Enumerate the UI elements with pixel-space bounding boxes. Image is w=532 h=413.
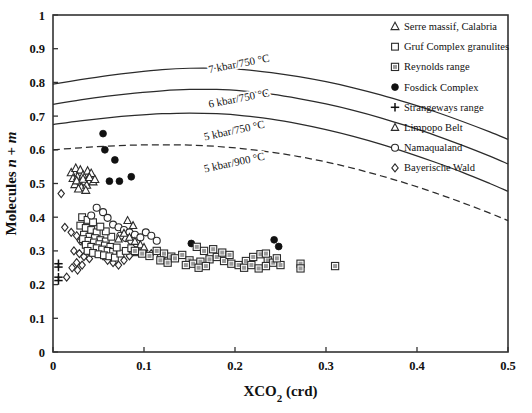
marker-square-gray (277, 261, 284, 268)
marker-square-gray (297, 265, 304, 272)
legend-label: Serre massif, Calabria (404, 21, 497, 32)
marker-circle-open (104, 214, 111, 221)
marker-circle-filled (101, 146, 108, 153)
svg-text:5 kbar/750 °C: 5 kbar/750 °C (203, 118, 266, 143)
marker-square-gray (262, 250, 269, 257)
marker-square-gray (262, 262, 269, 269)
marker-square-gray (182, 261, 189, 268)
marker-square-gray (164, 259, 171, 266)
marker-square-gray (131, 247, 138, 254)
marker-square-gray (248, 261, 255, 268)
marker-square-open (113, 244, 120, 251)
marker-circle-filled (116, 178, 123, 185)
legend-item-bayerische[interactable]: Bayerische Wald (392, 162, 476, 173)
marker-square-gray (228, 260, 235, 267)
marker-circle-filled (392, 84, 399, 91)
marker-square-open (392, 43, 399, 50)
marker-triangle-limpopo (124, 217, 131, 224)
marker-square-gray (219, 249, 226, 256)
y-tick-label: 0.5 (29, 177, 45, 191)
marker-plus (391, 103, 399, 111)
marker-square-gray (195, 264, 202, 271)
marker-circle-filled (106, 178, 113, 185)
series-strangeways-range (54, 260, 62, 285)
marker-triangle-limpopo (391, 124, 398, 131)
legend-item-gruf[interactable]: Gruf Complex granulites (392, 41, 509, 52)
marker-diamond-open (62, 223, 68, 231)
y-tick-label: 0.2 (29, 278, 45, 292)
scatter-plot: 00.10.20.30.40.500.10.20.30.40.50.60.70.… (0, 0, 532, 413)
marker-square-gray (160, 250, 167, 257)
marker-square-gray (273, 255, 280, 262)
marker-square-gray (146, 252, 153, 259)
marker-square-gray (139, 250, 146, 257)
legend-item-reynolds[interactable]: Reynolds range (391, 61, 470, 72)
marker-square-open (90, 219, 97, 226)
marker-square-gray (179, 251, 186, 258)
y-tick-label: 0.7 (29, 110, 45, 124)
svg-text:5 kbar/900 °C: 5 kbar/900 °C (203, 150, 266, 175)
marker-square-gray (202, 262, 209, 269)
marker-square-gray (332, 262, 339, 269)
y-tick-label: 0.8 (29, 76, 45, 90)
marker-square-gray (391, 63, 398, 70)
legend-label: Strangeways range (404, 102, 484, 113)
y-tick-label: 1 (39, 9, 45, 23)
marker-circle-open (88, 212, 95, 219)
y-tick-label: 0.1 (29, 312, 45, 326)
marker-circle-filled (111, 157, 118, 164)
marker-diamond-open (58, 190, 64, 198)
legend-item-limpopo[interactable]: Limpopo Belt (391, 122, 462, 133)
x-tick-label: 0.3 (318, 359, 334, 373)
marker-square-gray (157, 257, 164, 264)
y-tick-label: 0.3 (29, 244, 45, 258)
figure-container: 00.10.20.30.40.500.10.20.30.40.50.60.70.… (0, 0, 532, 413)
marker-square-gray (226, 251, 233, 258)
legend-label: Namaqualand (404, 142, 463, 153)
y-tick-label: 0 (39, 346, 45, 360)
curve-label: 5 kbar/750 °C5 kbar/750 °C (203, 118, 266, 143)
marker-square-gray (193, 243, 200, 250)
x-tick-label: 0.1 (136, 359, 152, 373)
marker-circle-open (93, 204, 100, 211)
legend-label: Reynolds range (404, 61, 470, 72)
marker-square-gray (206, 256, 213, 263)
marker-triangle-open (391, 22, 399, 29)
marker-circle-filled (128, 173, 135, 180)
legend-item-strangeways[interactable]: Strangeways range (391, 102, 484, 113)
x-tick-label: 0.5 (500, 359, 516, 373)
data-points-layer (54, 130, 338, 285)
curve-label: 5 kbar/900 °C5 kbar/900 °C (203, 150, 266, 175)
marker-square-gray (153, 247, 160, 254)
legend-label: Gruf Complex granulites (404, 41, 509, 52)
series-serre-massif-calabria (67, 164, 99, 193)
marker-circle-open (153, 237, 160, 244)
marker-circle-filled (275, 243, 282, 250)
marker-square-gray (255, 265, 262, 272)
marker-diamond-open (392, 164, 398, 172)
legend-label: Limpopo Belt (404, 122, 463, 133)
y-axis-title: Molecules n + m (3, 132, 19, 236)
legend-item-fosdick[interactable]: Fosdick Complex (392, 82, 480, 93)
marker-square-gray (250, 253, 257, 260)
x-axis-title: XCO2 (crd) (243, 383, 317, 404)
y-tick-label: 0.9 (29, 42, 45, 56)
y-tick-label: 0.4 (29, 211, 45, 225)
marker-circle-filled (271, 236, 278, 243)
marker-diamond-open (63, 273, 69, 281)
legend: Serre massif, CalabriaGruf Complex granu… (391, 21, 509, 173)
y-tick-label: 0.6 (29, 143, 45, 157)
marker-square-gray (200, 247, 207, 254)
legend-label: Bayerische Wald (404, 162, 476, 173)
x-tick-label: 0 (50, 359, 56, 373)
marker-circle-filled (100, 130, 107, 137)
marker-square-gray (241, 264, 248, 271)
legend-label: Fosdick Complex (404, 82, 479, 93)
series-reynolds-range (131, 243, 338, 272)
legend-item-serre[interactable]: Serre massif, Calabria (391, 21, 497, 32)
marker-square-gray (171, 255, 178, 262)
marker-square-open (97, 223, 104, 230)
marker-square-gray (210, 246, 217, 253)
x-tick-label: 0.2 (227, 359, 243, 373)
marker-circle-open (392, 144, 399, 151)
